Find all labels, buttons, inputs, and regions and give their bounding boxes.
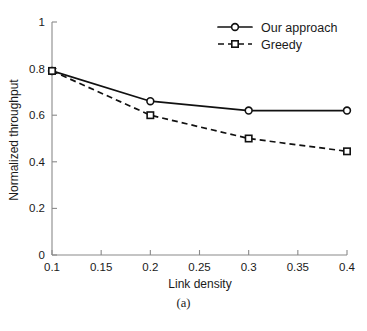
y-tick-label: 0 xyxy=(39,249,45,261)
x-tick-label: 0.4 xyxy=(339,261,356,273)
y-tick-label: 0.2 xyxy=(29,202,45,214)
data-point-marker xyxy=(147,98,154,105)
x-tick-label: 0.25 xyxy=(188,261,210,273)
figure-container: 00.20.40.60.81 0.10.150.20.250.30.350.4 … xyxy=(0,0,367,331)
x-axis-ticks: 0.10.150.20.250.30.350.4 xyxy=(44,250,356,273)
data-point-marker xyxy=(344,107,351,114)
legend-circle-marker xyxy=(232,24,239,31)
data-point-marker xyxy=(147,112,153,118)
data-point-marker xyxy=(49,68,55,74)
y-axis-ticks: 00.20.40.60.81 xyxy=(29,16,57,261)
data-series-group xyxy=(49,68,351,155)
legend-label-2: Greedy xyxy=(261,38,303,52)
chart-legend: Our approachGreedy xyxy=(218,21,337,52)
axes xyxy=(52,22,347,255)
figure-caption: (a) xyxy=(0,296,367,311)
x-tick-label: 0.15 xyxy=(90,261,112,273)
x-tick-label: 0.35 xyxy=(287,261,309,273)
y-tick-label: 0.6 xyxy=(29,109,45,121)
y-tick-label: 1 xyxy=(39,16,45,28)
legend-label-1: Our approach xyxy=(261,21,337,35)
y-tick-label: 0.8 xyxy=(29,63,45,75)
x-tick-label: 0.1 xyxy=(44,261,60,273)
legend-square-marker xyxy=(232,41,238,47)
data-point-marker xyxy=(344,148,350,154)
x-tick-label: 0.3 xyxy=(241,261,257,273)
data-point-marker xyxy=(245,135,251,141)
data-point-marker xyxy=(245,107,252,114)
x-tick-label: 0.2 xyxy=(142,261,158,273)
y-axis-title: Normalized throughput xyxy=(7,79,21,201)
series-line-1 xyxy=(52,71,347,111)
y-tick-label: 0.4 xyxy=(29,156,46,168)
x-axis-title: Link density xyxy=(168,277,231,291)
line-chart: 00.20.40.60.81 0.10.150.20.250.30.350.4 … xyxy=(0,0,367,300)
